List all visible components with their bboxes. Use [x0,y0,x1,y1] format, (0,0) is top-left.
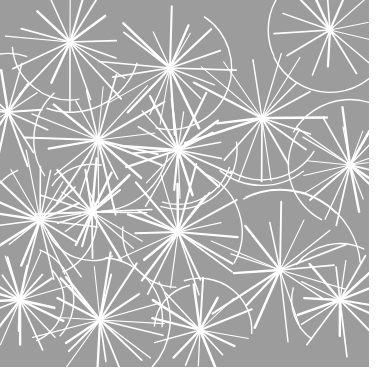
starburst-motif [121,93,237,209]
starburst-motif [152,278,252,367]
starburst-motif [211,189,360,341]
starburst-motif [118,164,242,295]
starburst-pattern [0,0,369,367]
starburst-motif [185,53,327,185]
starburst-motif [268,0,369,92]
pattern-image [0,0,369,367]
